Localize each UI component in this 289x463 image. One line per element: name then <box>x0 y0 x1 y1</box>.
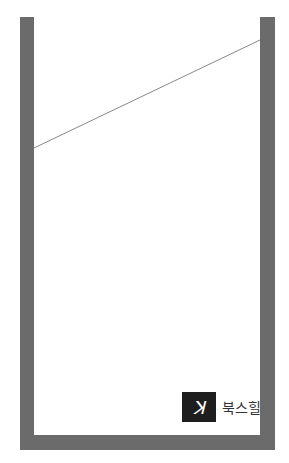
publisher-name: 북스힐 <box>222 397 261 417</box>
publisher-logo-mark-icon: ꓘ <box>182 392 216 422</box>
publisher-logo: ꓘ 북스힐 <box>182 392 261 422</box>
